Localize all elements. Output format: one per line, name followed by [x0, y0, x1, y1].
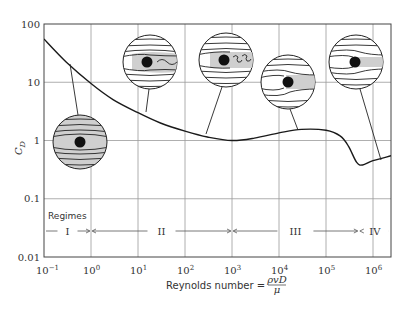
- x-tick-label: 102: [177, 264, 194, 276]
- x-tick-label: 10−1: [36, 264, 59, 276]
- svg-text:μ: μ: [274, 284, 281, 295]
- y-tick-label: 0.1: [24, 193, 40, 204]
- x-tick-label: 103: [224, 264, 241, 276]
- regime-II: II: [92, 226, 231, 237]
- flow-inset-vortex-shedding: [196, 33, 256, 87]
- y-tick-label: 100: [21, 19, 40, 30]
- flow-inset-creeping: [50, 115, 110, 169]
- flow-inset-wavy-wake: [120, 35, 180, 89]
- regime-I: I: [46, 226, 90, 237]
- y-axis-label: CD: [13, 140, 27, 155]
- y-axis-ticks: 1001010.10.01: [18, 19, 40, 263]
- flow-inset-narrow-wake: [326, 35, 386, 89]
- x-tick-label: 105: [318, 264, 335, 276]
- svg-text:I: I: [66, 226, 70, 237]
- flow-inset-wide-wake: [258, 55, 318, 109]
- x-axis-ticks: 10−1100101102103104105106: [36, 264, 383, 276]
- drag-coefficient-chart: 1001010.10.01 10−1100101102103104105106 …: [0, 0, 408, 309]
- y-tick-label: 1: [34, 135, 40, 146]
- svg-text:CD: CD: [13, 140, 27, 155]
- svg-text:III: III: [289, 226, 301, 237]
- regime-markers: IIIIIIIV: [46, 226, 389, 237]
- y-tick-label: 0.01: [18, 252, 40, 263]
- x-tick-label: 101: [130, 264, 147, 276]
- svg-text:IV: IV: [369, 226, 381, 237]
- regime-IV: IV: [360, 226, 389, 237]
- y-tick-label: 10: [27, 77, 40, 88]
- regimes-label: Regimes: [48, 211, 87, 221]
- x-tick-label: 100: [83, 264, 100, 276]
- x-tick-label: 106: [365, 264, 383, 276]
- x-axis-label: Reynolds number = ρvD μ: [166, 274, 287, 295]
- svg-text:II: II: [158, 226, 166, 237]
- svg-text:Reynolds number =: Reynolds number =: [166, 280, 265, 291]
- regime-III: III: [233, 226, 358, 237]
